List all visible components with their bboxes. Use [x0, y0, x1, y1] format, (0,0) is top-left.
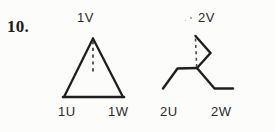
figure-1-edge-left — [64, 39, 93, 98]
scan-speck-secondary-icon — [185, 20, 186, 21]
figure-2-folded-apex — [196, 36, 211, 68]
figure-1-edge-right — [93, 39, 123, 98]
figure-1-apex-label: 1V — [77, 11, 94, 24]
figure-2-left-arm — [163, 68, 197, 89]
figure-2-bottom-left-label: 2U — [160, 105, 177, 118]
figure-2-dashed-axis — [196, 39, 197, 68]
scan-speck-icon — [190, 17, 192, 19]
figure-1-bottom-left-label: 1U — [58, 105, 75, 118]
figure-1-group — [63, 39, 124, 98]
figure-2-group — [163, 36, 233, 89]
figure-1-bottom-right-label: 1W — [108, 105, 128, 118]
figure-panel: 10. 1V 1U 1W 2V 2U 2W — [0, 0, 275, 132]
figure-2-right-arm — [197, 68, 233, 89]
figure-2-bottom-right-label: 2W — [211, 105, 231, 118]
figure-drawing-canvas — [0, 0, 275, 132]
item-number: 10. — [7, 18, 29, 35]
figure-2-apex-label: 2V — [198, 11, 215, 24]
